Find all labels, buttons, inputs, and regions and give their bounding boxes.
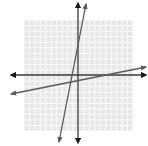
coordinate-graph (0, 0, 148, 146)
